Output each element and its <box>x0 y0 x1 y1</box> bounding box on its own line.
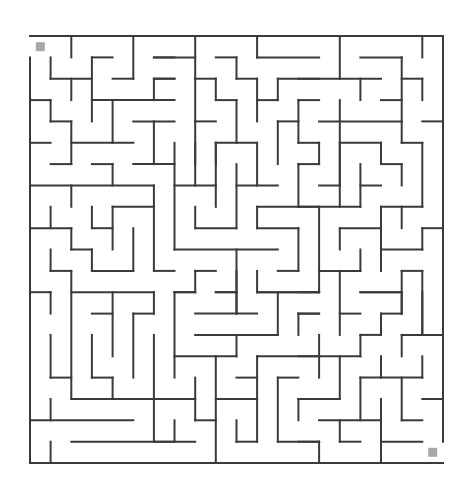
maze-walls <box>30 36 443 463</box>
start-marker <box>36 42 45 51</box>
maze-board <box>0 0 470 495</box>
end-marker <box>428 448 437 457</box>
